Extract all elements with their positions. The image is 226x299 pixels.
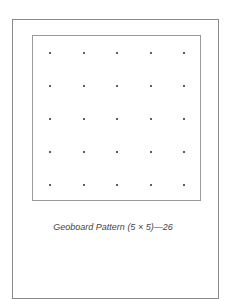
peg-dot <box>116 52 118 54</box>
peg-dot <box>183 118 185 120</box>
peg-dot <box>116 85 118 87</box>
peg-dot <box>83 184 85 186</box>
peg-dot <box>116 118 118 120</box>
peg-dot <box>150 52 152 54</box>
peg-dot <box>83 52 85 54</box>
peg-dot <box>183 52 185 54</box>
peg-dot <box>116 151 118 153</box>
peg-dot <box>49 151 51 153</box>
geoboard-grid <box>32 35 201 201</box>
peg-dot <box>183 85 185 87</box>
peg-dot <box>150 184 152 186</box>
peg-dot <box>49 85 51 87</box>
peg-dot <box>49 184 51 186</box>
figure-caption: Geoboard Pattern (5 × 5)—26 <box>0 222 226 232</box>
peg-dot <box>49 118 51 120</box>
peg-dot <box>83 85 85 87</box>
peg-dot <box>150 151 152 153</box>
peg-dot <box>83 151 85 153</box>
peg-dot <box>150 85 152 87</box>
peg-dot <box>116 184 118 186</box>
peg-dot <box>83 118 85 120</box>
peg-dot <box>150 118 152 120</box>
peg-dot <box>49 52 51 54</box>
peg-dot <box>183 184 185 186</box>
peg-dot <box>183 151 185 153</box>
